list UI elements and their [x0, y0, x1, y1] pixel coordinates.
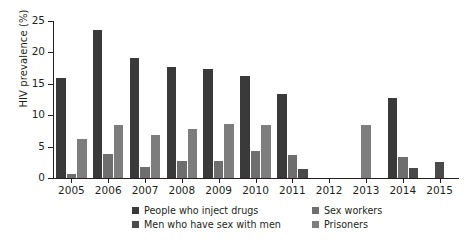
bar	[188, 129, 198, 178]
chart-legend: People who inject drugsSex workersMen wh…	[132, 205, 452, 233]
y-axis-tick-label: 0	[38, 171, 45, 183]
bar	[114, 125, 124, 178]
bar	[93, 30, 103, 178]
bar	[177, 161, 187, 178]
legend-row: People who inject drugsSex workers	[132, 205, 452, 216]
bar	[240, 76, 250, 178]
bar	[261, 125, 271, 178]
hiv-prevalence-bar-chart: HIV prevalence (%) 051015202520052006200…	[0, 0, 466, 251]
bar	[67, 174, 77, 178]
x-axis-tick-label: 2015	[426, 184, 453, 196]
bar	[409, 168, 419, 178]
x-axis-tick	[366, 179, 367, 183]
legend-item[interactable]: Men who have sex with men	[132, 219, 312, 230]
y-axis-tick-label: 25	[32, 14, 45, 26]
x-axis-tick	[403, 179, 404, 183]
legend-swatch-icon	[132, 207, 139, 214]
x-axis-tick	[71, 179, 72, 183]
x-axis-tick-label: 2011	[279, 184, 306, 196]
bar	[130, 58, 140, 178]
x-axis-tick-label: 2014	[389, 184, 416, 196]
y-axis-tick: 5	[48, 147, 53, 148]
legend-item-label: Sex workers	[324, 205, 382, 216]
y-axis-title: HIV prevalence (%)	[18, 0, 29, 134]
legend-item-label: People who inject drugs	[144, 205, 258, 216]
bar	[224, 124, 234, 178]
bar	[298, 169, 308, 178]
x-axis-tick-label: 2010	[242, 184, 269, 196]
y-axis-tick: 20	[48, 52, 53, 53]
legend-item[interactable]: Sex workers	[312, 205, 382, 216]
legend-item[interactable]: People who inject drugs	[132, 205, 312, 216]
legend-item-label: Prisoners	[324, 219, 368, 230]
x-axis-tick	[108, 179, 109, 183]
x-axis-tick-label: 2008	[168, 184, 195, 196]
bar	[167, 67, 177, 178]
y-axis-tick-label: 15	[32, 77, 45, 89]
legend-swatch-icon	[132, 221, 139, 228]
x-axis-tick	[292, 179, 293, 183]
y-axis-tick: 15	[48, 84, 53, 85]
legend-swatch-icon	[312, 207, 319, 214]
y-axis-tick-label: 20	[32, 45, 45, 57]
x-axis-tick-label: 2013	[353, 184, 380, 196]
x-axis-tick	[219, 179, 220, 183]
bar	[388, 98, 398, 178]
x-axis-tick	[256, 179, 257, 183]
bar	[251, 151, 261, 178]
bar	[151, 135, 161, 178]
legend-item[interactable]: Prisoners	[312, 219, 368, 230]
y-axis-tick: 10	[48, 115, 53, 116]
x-axis-tick-label: 2005	[58, 184, 85, 196]
y-axis-tick-label: 5	[38, 140, 45, 152]
y-axis-tick: 0	[48, 178, 53, 179]
x-axis-tick-label: 2006	[95, 184, 122, 196]
x-axis-tick-label: 2009	[205, 184, 232, 196]
legend-item-label: Men who have sex with men	[144, 219, 281, 230]
y-axis-tick: 25	[48, 21, 53, 22]
bar	[435, 162, 445, 178]
plot-area: 0510152025200520062007200820092010201120…	[53, 21, 458, 178]
legend-swatch-icon	[312, 221, 319, 228]
y-axis-tick-label: 10	[32, 108, 45, 120]
bar	[288, 155, 298, 178]
bar	[77, 139, 87, 178]
x-axis-tick	[145, 179, 146, 183]
x-axis-tick	[182, 179, 183, 183]
x-axis-tick-label: 2007	[132, 184, 159, 196]
legend-row: Men who have sex with menPrisoners	[132, 219, 452, 230]
bar	[398, 157, 408, 178]
bar	[361, 125, 371, 178]
bar	[140, 167, 150, 178]
bar	[203, 69, 213, 178]
bar	[56, 78, 66, 178]
x-axis-tick	[440, 179, 441, 183]
y-axis-line	[53, 21, 54, 179]
bar	[103, 154, 113, 178]
bar	[214, 161, 224, 178]
bar	[277, 94, 287, 178]
x-axis-tick	[329, 179, 330, 183]
x-axis-tick-label: 2012	[316, 184, 343, 196]
